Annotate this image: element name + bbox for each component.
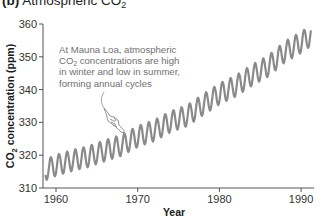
annotation-line-2: CO2 concentrations are high	[59, 55, 180, 66]
x-tick-label: 1980	[207, 193, 231, 205]
y-tick-label: 350	[19, 51, 37, 63]
annotation-line-4: forming annual cycles	[59, 78, 180, 89]
x-axis-title: Year	[163, 206, 185, 218]
y-ticks: 310320330340350360	[19, 18, 43, 194]
annotation-line-3: in winter and low in summer,	[59, 66, 180, 77]
annotation-leader-line	[101, 92, 104, 108]
y-tick-label: 320	[19, 149, 37, 161]
x-tick-label: 1970	[125, 193, 149, 205]
co2-line-chart: 310320330340350360 1960197019801990 Year…	[0, 0, 328, 220]
y-axis-title: CO2 concentration (ppm)	[4, 44, 19, 168]
x-tick-label: 1960	[44, 193, 68, 205]
y-tick-label: 310	[19, 182, 37, 194]
x-ticks: 1960197019801990	[44, 188, 314, 205]
pointing-hand-icon	[104, 108, 124, 133]
annotation-line-1: At Mauna Loa, atmospheric	[59, 44, 180, 55]
y-tick-label: 360	[19, 18, 37, 30]
x-tick-label: 1990	[289, 193, 313, 205]
y-tick-label: 340	[19, 84, 37, 96]
y-tick-label: 330	[19, 116, 37, 128]
annotation-text: At Mauna Loa, atmospheric CO2 concentrat…	[59, 44, 180, 89]
